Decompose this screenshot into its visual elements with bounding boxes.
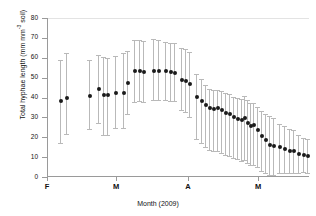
data-point xyxy=(173,71,177,75)
data-point xyxy=(292,149,296,153)
error-bar xyxy=(247,100,248,163)
x-axis-title: Month (2009) xyxy=(0,200,316,207)
error-bar xyxy=(261,111,262,171)
data-point xyxy=(142,70,146,74)
error-bar-cap-upper xyxy=(64,53,69,54)
data-point xyxy=(138,69,142,73)
error-bar-cap-lower xyxy=(219,153,224,154)
error-bar-cap-upper xyxy=(58,60,63,61)
data-point xyxy=(243,116,247,120)
error-bar xyxy=(265,114,266,173)
data-point xyxy=(65,96,69,100)
error-bar xyxy=(196,74,197,140)
error-bar xyxy=(213,90,214,152)
y-axis-title-suffix: soil) xyxy=(19,10,26,25)
error-bar-cap-lower xyxy=(58,143,63,144)
data-point xyxy=(133,69,137,73)
error-bar-cap-lower xyxy=(141,102,146,103)
data-point xyxy=(268,143,272,147)
y-axis-title-exponent: -3 xyxy=(16,25,22,29)
error-bar-cap-lower xyxy=(125,114,130,115)
data-point xyxy=(252,123,256,127)
error-bar-cap-upper xyxy=(271,118,276,119)
error-bar-cap-upper xyxy=(141,41,146,42)
error-bar xyxy=(205,85,206,148)
error-bar-cap-upper xyxy=(125,51,130,52)
error-bar-cap-lower xyxy=(235,159,240,160)
data-point xyxy=(256,128,260,132)
error-bar-cap-lower xyxy=(239,161,244,162)
error-bar-cap-upper xyxy=(96,55,101,56)
error-bar xyxy=(217,90,218,152)
error-bar-cap-upper xyxy=(203,85,208,86)
error-bar-cap-upper xyxy=(187,52,192,53)
data-point xyxy=(288,149,292,153)
error-bar xyxy=(225,93,226,156)
data-point xyxy=(164,69,168,73)
error-bar-cap-lower xyxy=(296,173,301,174)
error-bar xyxy=(66,53,67,134)
error-bar-cap-upper xyxy=(194,74,199,75)
error-bar-cap-upper xyxy=(121,53,126,54)
error-bar-cap-lower xyxy=(105,135,110,136)
data-point xyxy=(302,153,306,157)
data-point xyxy=(184,79,188,83)
error-bar-cap-lower xyxy=(215,151,220,152)
error-bar-cap-lower xyxy=(199,143,204,144)
error-bar-cap-upper xyxy=(263,114,268,115)
error-bar-cap-lower xyxy=(255,167,260,168)
data-point xyxy=(97,87,101,91)
data-point xyxy=(188,82,192,86)
error-bar-cap-upper xyxy=(219,91,224,92)
data-point xyxy=(236,117,240,121)
error-bar-cap-lower xyxy=(87,129,92,130)
data-point xyxy=(102,93,106,97)
error-bar xyxy=(233,97,234,159)
data-point xyxy=(114,91,118,95)
error-bar-cap-lower xyxy=(187,117,192,118)
error-bar-cap-upper xyxy=(172,43,177,44)
y-axis-title-prefix: Total hyphae length (mm mm xyxy=(19,29,26,119)
error-bar-cap-lower xyxy=(263,173,268,174)
error-bar-cap-lower xyxy=(251,165,256,166)
error-bar-cap-upper xyxy=(156,40,161,41)
error-bar xyxy=(253,103,254,165)
error-bar-cap-upper xyxy=(105,58,110,59)
error-bar-cap-upper xyxy=(183,49,188,50)
error-bar xyxy=(244,96,245,161)
data-point xyxy=(283,147,287,151)
error-bar xyxy=(237,98,238,159)
data-point xyxy=(195,95,199,99)
data-point xyxy=(88,94,92,98)
error-bar-cap-upper xyxy=(267,116,272,117)
error-bar xyxy=(201,79,202,144)
error-bar-cap-upper xyxy=(242,96,247,97)
data-point xyxy=(126,81,130,85)
error-bar-cap-upper xyxy=(255,107,260,108)
error-bar xyxy=(241,99,242,161)
data-point xyxy=(106,93,110,97)
data-point xyxy=(272,144,276,148)
data-point xyxy=(264,138,268,142)
error-bar-cap-upper xyxy=(305,139,310,140)
error-bar-cap-upper xyxy=(199,79,204,80)
error-bar xyxy=(209,89,210,151)
error-bar-cap-lower xyxy=(259,171,264,172)
data-point xyxy=(306,154,310,158)
data-point xyxy=(232,115,236,119)
error-bar-cap-upper xyxy=(291,130,296,131)
error-bar-cap-upper xyxy=(87,60,92,61)
error-bar-cap-upper xyxy=(296,135,301,136)
error-bar-cap-lower xyxy=(183,112,188,113)
data-point xyxy=(157,69,161,73)
error-bar-cap-upper xyxy=(277,124,282,125)
error-bar-cap-lower xyxy=(194,139,199,140)
data-point xyxy=(169,70,173,74)
data-point xyxy=(224,111,228,115)
error-bar-cap-upper xyxy=(227,94,232,95)
error-bar-cap-lower xyxy=(156,100,161,101)
error-bar xyxy=(221,91,222,154)
error-bar-cap-upper xyxy=(259,111,264,112)
error-bar xyxy=(250,103,251,165)
chart-figure: 80706050403020100 FMAM Total hyphae leng… xyxy=(0,0,316,216)
